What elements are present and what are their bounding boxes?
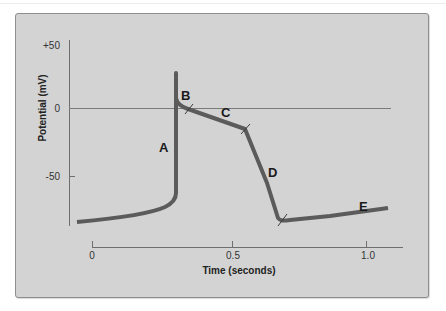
x-tick-label: 0 xyxy=(89,250,95,261)
phase-label-a: A xyxy=(159,140,169,155)
x-axis-title: Time (seconds) xyxy=(202,265,275,276)
y-tick-label: -50 xyxy=(46,171,61,182)
phase-label-d: D xyxy=(268,165,277,180)
phase-label-c: C xyxy=(221,105,231,120)
x-tick-label: 0.5 xyxy=(226,250,240,261)
action-potential-curve xyxy=(77,73,388,222)
action-potential-chart: +50 0 -50 0 0.5 1.0 Time (seconds) Poten… xyxy=(0,0,446,311)
phase-label-e: E xyxy=(359,199,368,214)
y-tick-label: 0 xyxy=(54,103,60,114)
y-axis-title: Potential (mV) xyxy=(37,74,48,141)
x-tick-label: 1.0 xyxy=(361,250,375,261)
phase-label-b: B xyxy=(181,88,190,103)
y-tick-label: +50 xyxy=(43,40,60,51)
